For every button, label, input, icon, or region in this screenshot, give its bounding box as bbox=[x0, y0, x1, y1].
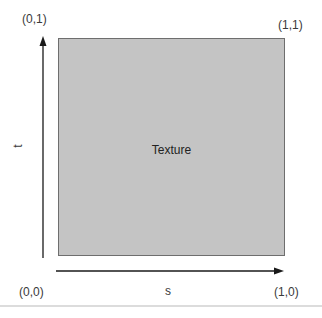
s-axis-label: s bbox=[165, 284, 171, 298]
corner-label-bottom-right: (1,0) bbox=[274, 285, 299, 299]
corner-label-top-right: (1,1) bbox=[278, 18, 303, 32]
s-axis-arrow bbox=[56, 268, 284, 275]
bottom-divider bbox=[0, 305, 322, 307]
t-axis-label: t bbox=[11, 144, 25, 147]
axes bbox=[0, 0, 322, 318]
corner-label-bottom-left: (0,0) bbox=[19, 285, 44, 299]
corner-label-top-left: (0,1) bbox=[22, 12, 47, 26]
t-axis-arrow bbox=[40, 36, 47, 258]
